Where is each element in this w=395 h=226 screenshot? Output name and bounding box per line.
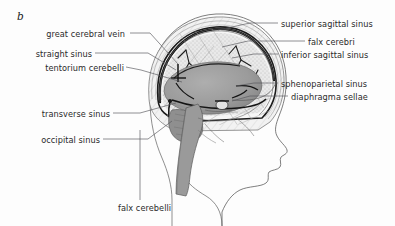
label-falx-cerebelli: falx cerebelli (118, 204, 171, 213)
label-diaphragma-sellae: diaphragma sellae (291, 93, 368, 102)
label-sphenoparietal-sinus: sphenoparietal sinus (281, 80, 367, 89)
label-great-cerebral-vein: great cerebral vein (46, 30, 125, 39)
label-falx-cerebri: falx cerebri (308, 38, 355, 47)
leader-occipital-sinus (103, 121, 172, 139)
panel-letter: b (17, 10, 24, 22)
pituitary-gland (216, 100, 228, 109)
label-straight-sinus: straight sinus (36, 50, 92, 59)
confluence-of-sinuses (168, 99, 172, 103)
label-transverse-sinus: transverse sinus (42, 110, 110, 119)
anatomical-figure: b great cerebral veinstraight sinustento… (0, 0, 395, 226)
label-superior-sagittal-sinus: superior sagittal sinus (281, 20, 373, 29)
label-inferior-sagittal-sinus: inferior sagittal sinus (281, 51, 368, 60)
label-tentorium-cerebelli: tentorium cerebelli (45, 64, 124, 73)
label-occipital-sinus: occipital sinus (41, 136, 100, 145)
